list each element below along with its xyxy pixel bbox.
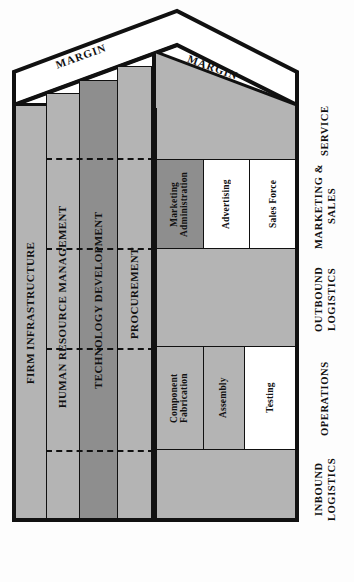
primary-box-label-advertising: Advertising — [204, 160, 249, 248]
stage-label-marketing-sales: MARKETING & SALES — [300, 160, 350, 252]
support-dashed-separator-3 — [46, 348, 154, 350]
primary-box-label-component-fabrication: Component Fabrication — [157, 347, 203, 449]
stage-label-service: SERVICE — [300, 100, 350, 162]
primary-box-component-fabrication[interactable]: Component Fabrication — [156, 346, 204, 450]
primary-box-advertising[interactable]: Advertising — [203, 159, 250, 249]
primary-box-label-sales-force: Sales Force — [250, 160, 297, 248]
outer-border-left — [12, 103, 16, 522]
primary-box-assembly[interactable]: Assembly — [203, 346, 245, 450]
support-dashed-separator-1 — [46, 158, 154, 160]
support-label-technology-development: TECHNOLOGY DEVELOPMENT — [80, 81, 117, 519]
stage-label-operations: OPERATIONS — [300, 348, 350, 450]
primary-box-marketing-administration[interactable]: Marketing Administration — [156, 159, 204, 249]
support-dashed-separator-4 — [46, 450, 154, 452]
primary-box-label-assembly: Assembly — [204, 347, 244, 449]
service-slant-fill — [156, 52, 299, 108]
support-label-firm-infrastructure: FIRM INFRASTRUCTURE — [15, 106, 46, 519]
primary-row-service[interactable] — [156, 105, 298, 160]
primary-row-marketing-sales[interactable]: Marketing Administration Advertising Sal… — [156, 159, 298, 249]
primary-box-label-testing: Testing — [245, 347, 297, 449]
primary-box-label-marketing-administration: Marketing Administration — [157, 160, 203, 248]
support-column-firm-infrastructure[interactable]: FIRM INFRASTRUCTURE — [14, 105, 47, 520]
stage-label-inbound-logistics: INBOUND LOGISTICS — [300, 450, 350, 528]
primary-row-inbound-logistics[interactable] — [156, 449, 298, 520]
outer-border-right — [295, 103, 299, 522]
support-column-technology-development[interactable]: TECHNOLOGY DEVELOPMENT — [79, 80, 118, 520]
primary-row-outbound-logistics[interactable] — [156, 248, 298, 347]
primary-box-testing[interactable]: Testing — [244, 346, 298, 450]
support-dashed-separator-2 — [46, 248, 154, 250]
primary-box-sales-force[interactable]: Sales Force — [249, 159, 298, 249]
stage-label-outbound-logistics: OUTBOUND LOGISTICS — [300, 250, 350, 348]
primary-row-operations[interactable]: Component Fabrication Assembly Testing — [156, 346, 298, 450]
value-chain-diagram: MARGIN MARGIN FIRM INFRASTRUCTURE HUMAN … — [0, 0, 354, 582]
outer-border-bottom — [12, 518, 299, 522]
